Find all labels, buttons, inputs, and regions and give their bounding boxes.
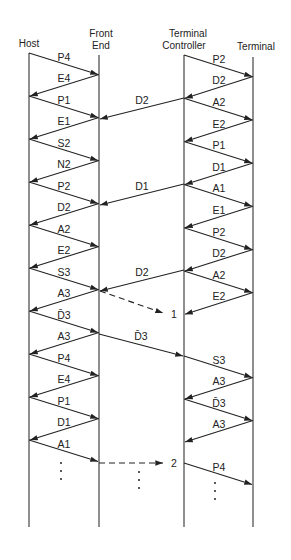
host-front-end-message-label: D2 [57, 201, 71, 213]
host-front-end-message-label: E4 [58, 72, 71, 84]
host-front-end-message-label: P2 [58, 180, 71, 192]
front-end-label-line1: Front [89, 28, 113, 39]
cross-label-d3-bar: D̄3 [134, 330, 148, 342]
cross-label-d2-first: D2 [135, 94, 149, 106]
controller-terminal-message-label: E2 [213, 290, 226, 302]
ellipsis-dot [138, 471, 140, 473]
controller-terminal-message-label: D2 [212, 247, 226, 259]
marker-1: 1 [171, 308, 177, 320]
controller-terminal-message-label: D1 [212, 161, 226, 173]
controller-terminal-message-label: P1 [213, 139, 226, 151]
controller-terminal-message-label: P2 [213, 226, 226, 238]
host-front-end-message-label: A3 [58, 287, 71, 299]
host-front-end-message-label: P1 [58, 395, 71, 407]
controller-terminal-message-label: D̄3 [212, 397, 226, 409]
cross-label-d2-second: D2 [135, 266, 149, 278]
host-front-end-message-label: A3 [58, 330, 71, 342]
host-front-end-labels: P4E4P1E1S2N2P2D2A2E2S3A3D̄3A3P4E4P1D1A1 [57, 51, 71, 450]
host-front-end-message-label: D1 [57, 416, 71, 428]
continuation-ellipses [60, 462, 216, 500]
front-end-label-line2: End [92, 40, 110, 51]
host-front-end-message-label: P4 [58, 352, 71, 364]
controller-terminal-message-label: A1 [213, 182, 226, 194]
host-front-end-message-label: D̄3 [57, 309, 71, 321]
controller-terminal-message-label: A2 [213, 96, 226, 108]
controller-terminal-message-label: E2 [213, 118, 226, 130]
host-front-end-message-label: P1 [58, 94, 71, 106]
ellipsis-dot [214, 490, 216, 492]
controller-terminal-message-label: S3 [213, 354, 226, 366]
terminal-controller-label-line1: Terminal [169, 28, 207, 39]
ellipsis-dot [60, 462, 62, 464]
host-front-end-message-label: N2 [57, 158, 71, 170]
marker-2: 2 [171, 457, 177, 469]
host-front-end-message-label: P4 [58, 51, 71, 63]
cross-label-d1: D1 [135, 180, 149, 192]
ellipsis-dot [60, 478, 62, 480]
host-label: Host [19, 38, 40, 49]
diagram-canvas: Host Front End Terminal Controller Termi… [0, 0, 291, 560]
host-front-end-message-label: E4 [58, 373, 71, 385]
host-front-end-message-label: A1 [58, 438, 71, 450]
controller-terminal-message-label: A2 [213, 269, 226, 281]
host-front-end-message-label: S2 [58, 137, 71, 149]
controller-terminal-message-label: A3 [213, 375, 226, 387]
controller-terminal-message-label: P2 [213, 53, 226, 65]
host-front-end-message-label: S3 [58, 266, 71, 278]
ellipsis-dot [138, 479, 140, 481]
ellipsis-dot [214, 498, 216, 500]
ellipsis-dot [214, 482, 216, 484]
controller-terminal-message-label: P4 [213, 461, 226, 473]
host-front-end-message-label: A2 [58, 223, 71, 235]
host-front-end-message-label: E1 [58, 115, 71, 127]
dashed-message-1 [100, 291, 163, 313]
terminal-controller-label-line2: Controller [162, 40, 206, 51]
cross-messages [99, 98, 184, 463]
controller-terminal-message-label: D2 [212, 74, 226, 86]
controller-terminal-message-label: E1 [213, 204, 226, 216]
host-front-end-message-label: E2 [58, 244, 71, 256]
terminal-label: Terminal [237, 41, 275, 52]
controller-terminal-message-label: A3 [213, 418, 226, 430]
ellipsis-dot [60, 470, 62, 472]
ellipsis-dot [138, 487, 140, 489]
sequence-diagram: Host Front End Terminal Controller Termi… [0, 0, 291, 560]
